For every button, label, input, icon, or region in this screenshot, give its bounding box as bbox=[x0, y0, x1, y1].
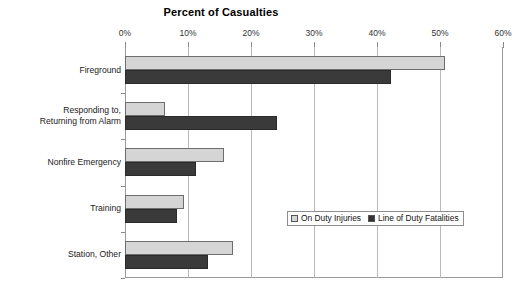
x-tick-mark bbox=[503, 42, 504, 48]
y-tick-mark bbox=[121, 278, 125, 279]
bar-line-of-duty-fatalities bbox=[125, 209, 177, 223]
bar-group bbox=[125, 139, 503, 185]
x-tick-label: 30% bbox=[305, 28, 322, 38]
bar-line-of-duty-fatalities bbox=[125, 116, 277, 130]
x-tick-label: 50% bbox=[431, 28, 448, 38]
bar-group bbox=[125, 47, 503, 93]
bar-group bbox=[125, 93, 503, 139]
chart-legend: On Duty InjuriesLine of Duty Fatalities bbox=[287, 211, 464, 226]
y-axis-label: Training bbox=[0, 203, 121, 214]
y-axis-label-line: Station, Other bbox=[0, 249, 121, 260]
legend-entry: On Duty Injuries bbox=[291, 214, 361, 223]
legend-swatch-icon bbox=[291, 215, 298, 222]
bar-on-duty-injuries bbox=[125, 195, 184, 209]
y-axis-label: Station, Other bbox=[0, 249, 121, 260]
x-tick-label: 40% bbox=[368, 28, 385, 38]
y-axis-label-line: Returning from Alarm bbox=[0, 116, 121, 127]
y-axis-label-line: Nonfire Emergency bbox=[0, 157, 121, 168]
bar-on-duty-injuries bbox=[125, 148, 224, 162]
chart-title: Percent of Casualties bbox=[0, 6, 526, 18]
x-tick-label: 0% bbox=[119, 28, 131, 38]
x-tick-label: 20% bbox=[242, 28, 259, 38]
y-axis-label-line: Training bbox=[0, 203, 121, 214]
x-axis-tick-labels: 0%10%20%30%40%50%60% bbox=[0, 28, 526, 40]
bar-on-duty-injuries bbox=[125, 56, 445, 70]
bar-line-of-duty-fatalities bbox=[125, 70, 391, 84]
bar-chart: Percent of Casualties 0%10%20%30%40%50%6… bbox=[0, 0, 526, 294]
legend-label: Line of Duty Fatalities bbox=[378, 214, 459, 223]
bar-groups bbox=[125, 47, 503, 278]
legend-entry: Line of Duty Fatalities bbox=[368, 214, 459, 223]
bar-line-of-duty-fatalities bbox=[125, 255, 208, 269]
y-axis-category-labels: FiregroundResponding to,Returning from A… bbox=[0, 47, 121, 278]
y-axis-label-line: Responding to, bbox=[0, 105, 121, 116]
x-tick-label: 10% bbox=[179, 28, 196, 38]
y-axis-label: Fireground bbox=[0, 65, 121, 76]
x-tick-label: 60% bbox=[494, 28, 511, 38]
bar-line-of-duty-fatalities bbox=[125, 162, 196, 176]
legend-swatch-icon bbox=[368, 215, 375, 222]
bar-on-duty-injuries bbox=[125, 102, 165, 116]
legend-label: On Duty Injuries bbox=[301, 214, 361, 223]
y-axis-label-line: Fireground bbox=[0, 65, 121, 76]
y-axis-label: Responding to,Returning from Alarm bbox=[0, 105, 121, 127]
y-axis-label: Nonfire Emergency bbox=[0, 157, 121, 168]
bar-on-duty-injuries bbox=[125, 241, 233, 255]
bar-group bbox=[125, 232, 503, 278]
